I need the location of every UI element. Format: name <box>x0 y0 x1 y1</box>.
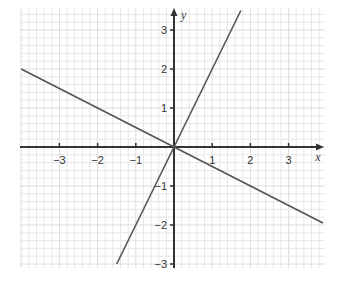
x-tick-label: 3 <box>286 154 292 166</box>
x-tick-label: 2 <box>247 154 253 166</box>
y-tick-label: 3 <box>161 24 167 36</box>
grid <box>20 8 325 268</box>
plotted-lines <box>21 11 323 265</box>
x-tick-label: 1 <box>209 154 215 166</box>
y-axis-arrow-icon <box>171 8 178 16</box>
x-tick-label: −2 <box>91 154 104 166</box>
axes <box>20 8 324 268</box>
y-axis-label: y <box>180 8 187 22</box>
y-tick-label: −1 <box>154 180 167 192</box>
x-tick-label: −1 <box>130 154 143 166</box>
y-tick-label: −3 <box>154 258 167 270</box>
y-tick-label: 2 <box>161 63 167 75</box>
x-axis-label: x <box>314 150 321 164</box>
y-tick-label: −2 <box>154 219 167 231</box>
coordinate-plane: −3−2−1123−3−2−1123xy <box>0 0 342 285</box>
x-tick-label: −3 <box>53 154 66 166</box>
y-tick-label: 1 <box>161 102 167 114</box>
